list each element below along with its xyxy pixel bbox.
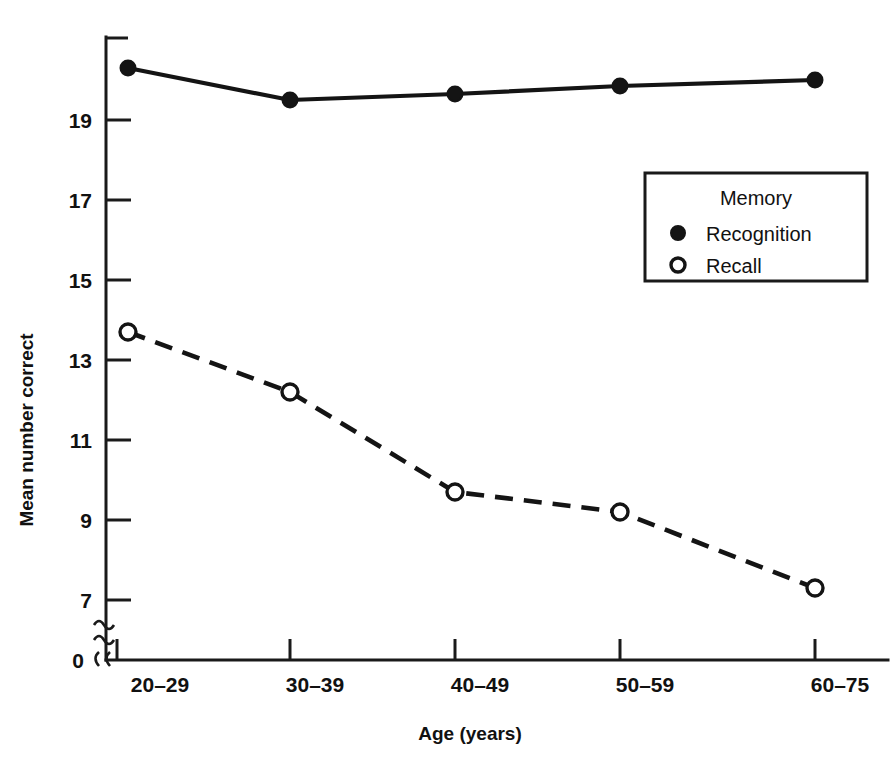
legend: Memory Recognition Recall [645,173,867,281]
figure-page: 19 17 15 13 11 [0,0,894,763]
x-tick-label: 50–59 [616,673,674,696]
x-tick-50-59: 50–59 [616,639,674,696]
data-point [447,484,463,500]
legend-open-circle-icon [671,258,685,272]
data-point [120,324,136,340]
data-point [283,93,298,108]
y-axis-title: Mean number correct [16,333,37,527]
legend-title: Memory [720,187,792,209]
chart-canvas: 19 17 15 13 11 [0,0,894,763]
series-recall [120,324,823,596]
y-tick-0: 0 [72,649,84,672]
x-tick-label: 40–49 [451,673,509,696]
data-point [613,79,628,94]
data-point [612,504,628,520]
y-tick-label: 19 [69,109,92,132]
legend-item-label: Recall [706,255,762,277]
series-recognition [121,61,823,108]
x-tick-label: 20–29 [131,673,189,696]
data-point [282,384,298,400]
y-tick-label: 11 [70,429,93,452]
y-origin-label: 0 [72,649,84,672]
recognition-line [128,68,815,100]
x-tick-40-49: 40–49 [451,639,509,696]
x-tick-30-39: 30–39 [286,639,344,696]
x-tick-20-29: 20–29 [117,639,189,696]
y-tick-label: 17 [69,189,92,212]
data-point [808,73,823,88]
line-chart-figure: 19 17 15 13 11 [0,0,894,763]
y-tick-11: 11 [70,429,131,452]
y-tick-13: 13 [69,349,131,372]
x-axis-title: Age (years) [418,723,522,744]
recall-markers [120,324,823,596]
data-point [807,580,823,596]
y-tick-label: 7 [80,589,92,612]
legend-item-label: Recognition [706,223,812,245]
y-tick-label: 9 [80,509,92,532]
x-tick-label: 60–75 [811,673,870,696]
legend-filled-circle-icon [671,226,685,240]
y-tick-label: 13 [69,349,92,372]
data-point [121,61,136,76]
x-tick-60-75: 60–75 [811,639,870,696]
recall-line [128,332,815,588]
y-tick-15: 15 [69,269,131,292]
x-tick-label: 30–39 [286,673,344,696]
y-tick-19: 19 [69,109,131,132]
y-axis: 19 17 15 13 11 [16,37,131,672]
y-tick-label: 15 [69,269,93,292]
x-axis: 20–29 30–39 40–49 50–59 60–75 [106,639,888,744]
data-point [448,87,463,102]
y-tick-17: 17 [69,189,131,212]
